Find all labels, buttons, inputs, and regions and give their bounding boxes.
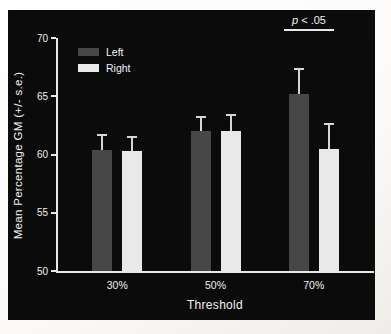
legend-item-left: Left [78, 46, 131, 58]
significance-line [284, 29, 334, 31]
legend-label-left: Left [106, 46, 124, 58]
x-tick-label-70%: 70% [292, 279, 336, 291]
error-cap-right-50% [226, 114, 236, 116]
error-bar-left-30% [101, 135, 103, 150]
x-axis-line [56, 271, 374, 273]
y-tick-mark [51, 37, 56, 39]
x-tick-label-50%: 50% [194, 279, 238, 291]
error-cap-left-70% [294, 68, 304, 70]
bar-right-50% [221, 131, 241, 271]
y-axis-line [56, 38, 58, 273]
error-cap-left-30% [97, 134, 107, 136]
significance-annotation: p < .05 [284, 14, 334, 26]
error-cap-right-70% [324, 123, 334, 125]
error-bar-right-50% [230, 115, 232, 131]
y-tick-mark [51, 154, 56, 156]
x-axis-title: Threshold [56, 298, 374, 312]
error-bar-left-50% [200, 117, 202, 131]
error-bar-right-30% [131, 137, 133, 151]
bar-left-50% [191, 131, 211, 271]
error-cap-left-50% [196, 116, 206, 118]
y-tick-label: 60 [18, 148, 48, 161]
bar-left-70% [289, 94, 309, 271]
y-tick-label: 55 [18, 206, 48, 219]
y-tick-label: 50 [18, 265, 48, 278]
legend-swatch-left [78, 48, 99, 56]
bar-right-30% [122, 151, 142, 271]
legend-label-right: Right [106, 62, 131, 74]
error-bar-right-70% [328, 124, 330, 148]
y-tick-label: 70 [18, 32, 48, 45]
legend: LeftRight [78, 46, 131, 78]
bar-right-70% [319, 149, 339, 271]
bar-left-30% [92, 150, 112, 271]
legend-item-right: Right [78, 62, 131, 74]
error-bar-left-70% [298, 69, 300, 93]
y-tick-label: 65 [18, 90, 48, 103]
chart-panel: Mean Percentage GM (+/- s.e.) LeftRight … [8, 10, 375, 320]
legend-swatch-right [78, 64, 99, 72]
p-comparison: < .05 [298, 14, 326, 26]
y-tick-mark [51, 95, 56, 97]
x-tick-label-30%: 30% [95, 279, 139, 291]
error-cap-right-30% [127, 136, 137, 138]
y-tick-mark [51, 212, 56, 214]
y-tick-mark [51, 270, 56, 272]
